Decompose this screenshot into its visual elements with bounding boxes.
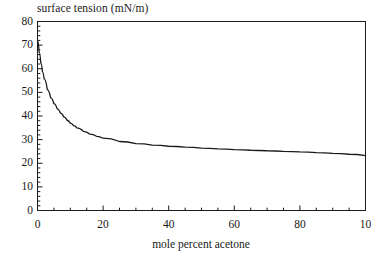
x-tick-label: 10 xyxy=(360,219,372,231)
x-axis-title: mole percent acetone xyxy=(152,238,250,251)
x-tick-label: 40 xyxy=(163,219,175,231)
x-tick-label: 60 xyxy=(229,219,241,231)
x-tick-label: 80 xyxy=(294,219,306,231)
figure-container: surface tension (mN/m) 01020304050607080… xyxy=(0,0,382,258)
x-axis-tick-labels: 02040608010 xyxy=(0,0,382,258)
x-tick-label: 0 xyxy=(35,219,41,231)
x-tick-label: 20 xyxy=(97,219,109,231)
